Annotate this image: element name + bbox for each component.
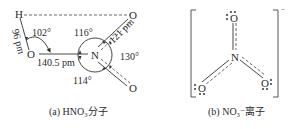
label-angle-right: 130° (120, 51, 139, 62)
atom-o-left: O (198, 82, 206, 94)
atom-o-hydroxyl: O (27, 48, 35, 60)
atom-o-top: O (230, 12, 238, 24)
label-oh-bond: 96 pm (10, 28, 27, 55)
left-bracket (191, 10, 196, 97)
label-hon-angle: 102° (32, 27, 51, 38)
diagram-canvas: H O N O O 96 pm 102° 140.5 pm 116° 121 p… (0, 0, 294, 129)
atom-o-right: O (261, 77, 269, 89)
nitrate-ion: − O N O O (b) NO₃⁻离子 (191, 6, 285, 118)
label-no-bond: 121 pm (107, 16, 136, 45)
label-on-bond: 140.5 pm (37, 57, 75, 68)
caption-panel-a: (a) HNO₃分子 (49, 106, 108, 118)
caption-panel-b: (b) NO₃⁻离子 (208, 105, 265, 118)
label-angle-top: 116° (74, 27, 93, 38)
atom-n: N (231, 51, 239, 63)
right-bracket (273, 10, 278, 97)
no-right-bond-solid (240, 60, 263, 78)
hno3-molecule: H O N O O 96 pm 102° 140.5 pm 116° 121 p… (10, 8, 139, 118)
atom-n: N (91, 49, 99, 61)
no-bottom-bond-solid (98, 62, 127, 86)
label-angle-bottom: 114° (73, 75, 92, 86)
no-bottom-bond-dashed (101, 59, 130, 83)
atom-o-bottom: O (129, 82, 137, 94)
no-left-bond-solid (202, 60, 229, 82)
charge-sign: − (281, 6, 285, 14)
atom-h: H (15, 8, 23, 20)
no-right-bond-dashed (242, 57, 265, 75)
no-left-bond-dashed (205, 63, 232, 85)
